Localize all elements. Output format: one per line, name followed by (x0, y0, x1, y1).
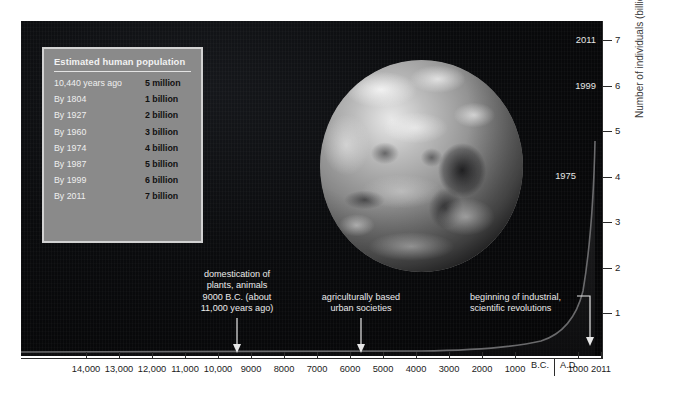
x-tick-label-14000: 14,000 (72, 364, 100, 374)
x-tick-label-2011: 2011 (591, 364, 611, 374)
y-tick-label-3: 3 (615, 216, 620, 227)
inline-year-1999: 1999 (556, 80, 596, 91)
x-tick-11000 (185, 352, 186, 359)
y-tick-label-2: 2 (615, 262, 620, 273)
annotation-arrow-urban (354, 318, 368, 354)
population-table-body: 10,440 years ago 5 million By 1804 1 bil… (54, 75, 191, 205)
y-tick-label-7: 7 (615, 34, 620, 45)
y-axis-line (602, 21, 603, 358)
table-cell-value: 2 billion (139, 107, 191, 123)
x-tick-label-1000-bc: 1000 (505, 364, 526, 374)
table-row: By 1960 3 billion (54, 124, 191, 140)
y-tick-5 (603, 131, 612, 132)
x-tick-label-5000: 5000 (373, 364, 394, 374)
x-tick-7000 (317, 352, 318, 359)
y-tick-7 (603, 40, 612, 41)
table-row: By 2011 7 billion (54, 188, 191, 204)
annotation-line: 11,000 years ago) (178, 303, 296, 314)
y-tick-4 (603, 177, 612, 178)
y-tick-label-1: 1 (615, 307, 620, 318)
table-cell-when: By 1987 (54, 156, 139, 172)
x-tick-label-4000: 4000 (406, 364, 427, 374)
x-tick-label-11000: 11,000 (171, 364, 199, 374)
x-tick-label-13000: 13,000 (105, 364, 133, 374)
x-tick-6000 (350, 352, 351, 359)
x-tick-label-3000: 3000 (439, 364, 460, 374)
x-tick-8000 (284, 352, 285, 359)
table-row: By 1927 2 billion (54, 107, 191, 123)
annotation-domestication: domestication of plants, animals 9000 B.… (178, 269, 296, 315)
table-cell-value: 5 million (139, 75, 191, 91)
x-tick-4000 (416, 352, 417, 359)
x-tick-14000 (86, 352, 87, 359)
table-row: By 1974 4 billion (54, 140, 191, 156)
annotation-line: scientific revolutions (470, 303, 592, 314)
annotation-industrial-revolution: beginning of industrial, scientific revo… (470, 292, 592, 315)
table-cell-when: 10,440 years ago (54, 75, 139, 91)
x-tick-2000 (482, 352, 483, 359)
y-axis-title: Number of individuals (billions) (634, 0, 645, 118)
annotation-line: 9000 B.C. (about (178, 292, 296, 303)
y-tick-label-6: 6 (615, 80, 620, 91)
y-tick-label-5: 5 (615, 125, 620, 136)
table-cell-value: 1 billion (139, 91, 191, 107)
annotation-line: agriculturally based (306, 292, 416, 303)
table-cell-value: 7 billion (139, 188, 191, 204)
x-tick-9000 (251, 352, 252, 359)
x-tick-10000 (218, 352, 219, 359)
inline-year-1975: 1975 (536, 170, 576, 181)
table-cell-value: 6 billion (139, 172, 191, 188)
era-label-ad: A.D. (560, 360, 578, 370)
table-cell-when: By 2011 (54, 188, 139, 204)
annotation-line: beginning of industrial, (470, 292, 592, 303)
y-tick-3 (603, 222, 612, 223)
era-divider (554, 358, 555, 376)
x-tick-13000 (119, 352, 120, 359)
annotation-urban-societies: agriculturally based urban societies (306, 292, 416, 315)
x-tick-label-10000: 10,000 (204, 364, 232, 374)
earth-terminator (320, 60, 523, 272)
annotation-line: plants, animals (178, 280, 296, 291)
table-row: By 1987 5 billion (54, 156, 191, 172)
y-tick-6 (603, 86, 612, 87)
y-tick-2 (603, 268, 612, 269)
table-cell-when: By 1927 (54, 107, 139, 123)
table-cell-when: By 1974 (54, 140, 139, 156)
x-tick-12000 (152, 352, 153, 359)
table-title: Estimated human population (54, 56, 191, 71)
table-cell-when: By 1999 (54, 172, 139, 188)
annotation-arrow-industrial (577, 294, 597, 348)
y-tick-label-4: 4 (615, 171, 620, 182)
table-row: By 1804 1 billion (54, 91, 191, 107)
table-cell-when: By 1960 (54, 124, 139, 140)
annotation-line: domestication of (178, 269, 296, 280)
annotation-arrow-domestication (230, 318, 244, 354)
y-tick-1 (603, 313, 612, 314)
table-cell-value: 4 billion (139, 140, 191, 156)
earth-globe-photo (320, 60, 523, 272)
x-tick-3000 (449, 352, 450, 359)
table-title-rule (54, 71, 191, 72)
x-tick-label-2000: 2000 (472, 364, 493, 374)
table-cell-when: By 1804 (54, 91, 139, 107)
x-tick-1000-bc (515, 352, 516, 359)
x-tick-2011 (601, 352, 602, 359)
era-label-bc: B.C. (531, 360, 549, 370)
x-tick-5000 (383, 352, 384, 359)
estimated-population-table: Estimated human population 10,440 years … (42, 47, 203, 243)
table-row: 10,440 years ago 5 million (54, 75, 191, 91)
population-growth-figure: Estimated human population 10,440 years … (0, 0, 675, 401)
x-tick-label-12000: 12,000 (138, 364, 166, 374)
inline-year-2011: 2011 (556, 34, 596, 45)
x-tick-label-6000: 6000 (340, 364, 361, 374)
x-tick-label-8000: 8000 (274, 364, 295, 374)
table-cell-value: 5 billion (139, 156, 191, 172)
x-tick-1000-ad (578, 352, 579, 359)
table-row: By 1999 6 billion (54, 172, 191, 188)
x-tick-label-7000: 7000 (307, 364, 328, 374)
x-tick-label-9000: 9000 (241, 364, 262, 374)
table-cell-value: 3 billion (139, 124, 191, 140)
annotation-line: urban societies (306, 303, 416, 314)
